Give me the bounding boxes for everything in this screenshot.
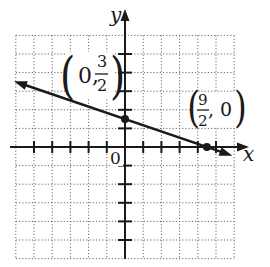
line-arrow-right-icon [219, 147, 233, 156]
label-x-intercept: ( 9 2 , 0 ) [187, 83, 247, 132]
axes [10, 9, 249, 259]
y-axis-label: y [109, 3, 122, 27]
label-coordinate-y: , 0 [208, 98, 232, 120]
x-axis-label: x [243, 142, 254, 166]
point-y-intercept [121, 115, 129, 123]
y-axis-arrow-icon [121, 9, 130, 21]
label-coordinate-x: 0, [78, 63, 99, 88]
label-fraction-numerator: 3 [97, 52, 107, 71]
label-fraction-denominator: 2 [97, 76, 107, 95]
label-fraction-numerator: 9 [198, 91, 208, 109]
origin-label: 0 [110, 148, 121, 168]
line-arrow-left-icon [14, 81, 28, 90]
point-x-intercept [203, 143, 211, 151]
coordinate-graph: ( 0, 3 2 ) ( 9 2 , 0 ) y x 0 [0, 0, 270, 267]
label-close-paren: ) [110, 46, 125, 105]
label-open-paren: ( [60, 46, 75, 105]
label-close-paren: ) [234, 83, 247, 132]
label-fraction-denominator: 2 [198, 112, 208, 130]
label-y-intercept: ( 0, 3 2 ) [60, 46, 125, 105]
